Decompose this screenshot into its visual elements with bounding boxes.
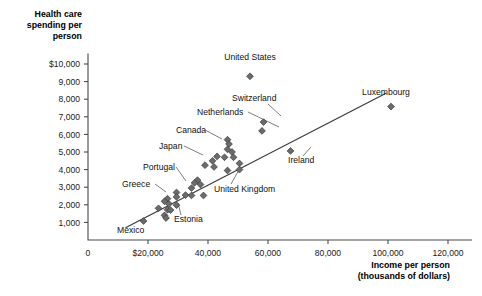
- y-axis-tick-label: 1,000: [58, 218, 80, 228]
- point-label: United States: [224, 52, 276, 62]
- trend-line: [126, 93, 387, 228]
- y-axis-tick-label: 4,000: [58, 165, 80, 175]
- point-label: Canada: [176, 125, 206, 135]
- data-point: [260, 119, 267, 126]
- axes-layer: 1,0002,0003,0004,0005,0006,0007,0008,000…: [49, 53, 472, 258]
- annotation-leader-line: [155, 184, 166, 192]
- x-axis-tick-label: $20,000: [132, 248, 163, 258]
- x-axis-tick-label: 40,000: [195, 248, 222, 258]
- data-point: [200, 192, 207, 199]
- point-label: Greece: [122, 179, 150, 189]
- y-axis-tick-label: 3,000: [58, 182, 80, 192]
- data-point: [388, 103, 395, 110]
- x-axis-tick-label: 80,000: [315, 248, 342, 258]
- y-axis-tick-label: 8,000: [58, 94, 80, 104]
- data-point: [247, 73, 254, 80]
- point-label: Netherlands: [197, 107, 243, 117]
- data-point: [155, 205, 162, 212]
- y-axis-tick-label: 7,000: [58, 112, 80, 122]
- annotation-leader-line: [184, 146, 203, 155]
- scatter-chart: 1,0002,0003,0004,0005,0006,0007,0008,000…: [0, 0, 482, 296]
- data-point: [140, 218, 147, 225]
- annotation-leader-line: [205, 130, 222, 139]
- data-point: [214, 153, 221, 160]
- y-axis-title-line: spending per: [27, 20, 83, 30]
- x-axis-tick-label: 0: [86, 248, 91, 258]
- annotation-leader-line: [268, 104, 281, 116]
- axis-lines: [88, 53, 472, 240]
- y-axis-tick-label: 6,000: [58, 130, 80, 140]
- y-axis-tick-label: 2,000: [58, 200, 80, 210]
- chart-svg: 1,0002,0003,0004,0005,0006,0007,0008,000…: [0, 0, 482, 296]
- data-point: [224, 167, 231, 174]
- x-axis-tick-label: 120,000: [432, 248, 463, 258]
- point-label: Switzerland: [232, 93, 277, 103]
- x-axis-title-line: Income per person: [371, 260, 450, 270]
- data-point: [221, 154, 228, 161]
- y-axis-title-line: person: [53, 31, 82, 41]
- y-axis-tick-label: 9,000: [58, 77, 80, 87]
- x-axis-title-line: (thousands of dollars): [358, 271, 450, 281]
- x-axis-tick-label: 100,000: [372, 248, 403, 258]
- data-point: [287, 148, 294, 155]
- point-label: Portugal: [143, 162, 175, 172]
- data-point: [202, 162, 209, 169]
- x-axis-tick-label: 60,000: [255, 248, 282, 258]
- y-axis-title-line: Health care: [35, 9, 83, 19]
- data-point: [211, 164, 218, 171]
- data-point: [209, 157, 216, 164]
- data-point: [188, 192, 195, 199]
- data-point: [259, 127, 266, 134]
- point-label: United Kingdom: [214, 184, 275, 194]
- point-label: Ireland: [288, 155, 314, 165]
- point-label: Japan: [159, 141, 183, 151]
- annotation-leader-line: [176, 167, 186, 181]
- data-point: [173, 193, 180, 200]
- trendline-layer: [126, 93, 387, 228]
- y-axis-tick-label: 5,000: [58, 147, 80, 157]
- y-axis-tick-label: $10,000: [49, 59, 80, 69]
- point-label: Luxembourg: [362, 87, 410, 97]
- point-label: Estonia: [174, 214, 203, 224]
- point-label: Mexico: [117, 225, 144, 235]
